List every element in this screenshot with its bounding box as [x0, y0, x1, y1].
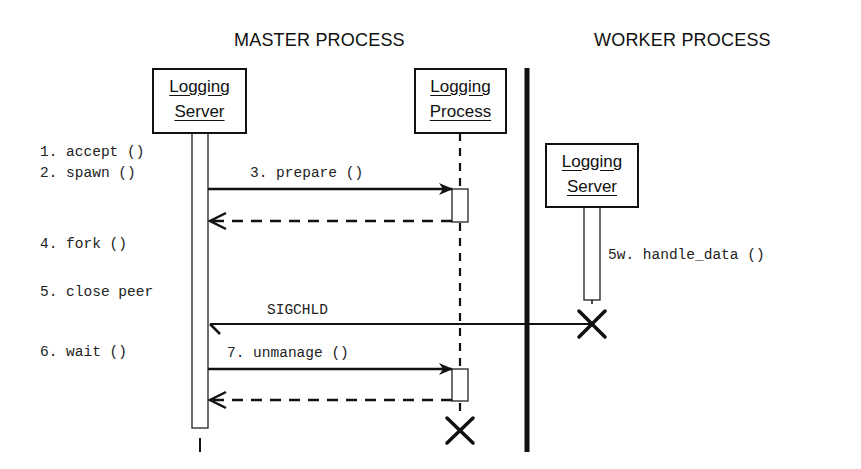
step-wait: 6. wait (): [40, 344, 127, 360]
logging-process-activation-1: [452, 189, 468, 222]
logging-process-activation-2: [452, 369, 468, 401]
master-server-activation: [192, 133, 208, 428]
participant-label-line2: Process: [430, 99, 491, 124]
participant-label-line1: Logging: [169, 74, 230, 99]
participant-master-logging-server: Logging Server: [152, 68, 247, 134]
worker-server-activation: [584, 207, 600, 300]
logging-process-destroy-icon: [447, 418, 473, 443]
participant-label-line2: Server: [174, 99, 224, 124]
message-unmanage-label: 7. unmanage (): [227, 345, 349, 361]
step-handle-data: 5w. handle_data (): [608, 247, 765, 263]
participant-worker-logging-server: Logging Server: [545, 143, 639, 208]
message-prepare-label: 3. prepare (): [250, 165, 363, 181]
step-accept: 1. accept (): [40, 144, 144, 160]
participant-label-line2: Server: [567, 174, 617, 199]
participant-label-line1: Logging: [562, 149, 623, 174]
step-close-peer: 5. close peer: [40, 284, 153, 300]
step-spawn: 2. spawn (): [40, 165, 136, 181]
participant-label-line1: Logging: [430, 74, 491, 99]
participant-logging-process: Logging Process: [414, 68, 507, 134]
step-fork: 4. fork (): [40, 236, 127, 252]
message-sigchld-label: SIGCHLD: [267, 302, 328, 318]
